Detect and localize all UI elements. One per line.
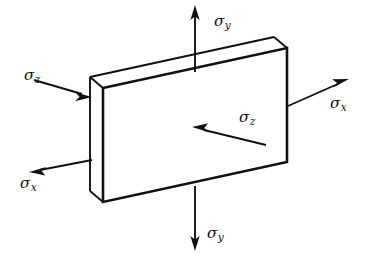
figure-canvas: σy σz σx σz σx σy: [0, 0, 367, 263]
stress-element-drawing: [0, 0, 367, 263]
sigma-subscript: z: [34, 73, 40, 85]
sigma-symbol: σ: [20, 174, 30, 192]
arrow-sigma-x-left: [29, 160, 92, 176]
sigma-symbol: σ: [207, 224, 217, 242]
label-sigma-y-top: σy: [214, 14, 231, 30]
sigma-symbol: σ: [214, 12, 224, 30]
label-sigma-z-inner: σz: [239, 110, 255, 126]
label-sigma-x-left: σx: [20, 176, 37, 192]
sigma-symbol: σ: [330, 94, 340, 112]
sigma-subscript: z: [249, 115, 255, 127]
sigma-symbol: σ: [239, 108, 249, 126]
arrow-sigma-z-left: [34, 80, 92, 101]
slab-body: [90, 37, 287, 202]
sigma-subscript: x: [340, 101, 346, 113]
sigma-subscript: x: [30, 181, 36, 193]
sigma-subscript: y: [224, 19, 230, 31]
sigma-subscript: y: [217, 231, 223, 243]
arrow-sigma-y-bottom: [190, 186, 199, 251]
label-sigma-y-bottom: σy: [207, 226, 224, 242]
slab-left-face: [90, 77, 103, 202]
label-sigma-x-right: σx: [330, 96, 347, 112]
label-sigma-z-left: σz: [24, 68, 40, 84]
sigma-symbol: σ: [24, 66, 34, 84]
